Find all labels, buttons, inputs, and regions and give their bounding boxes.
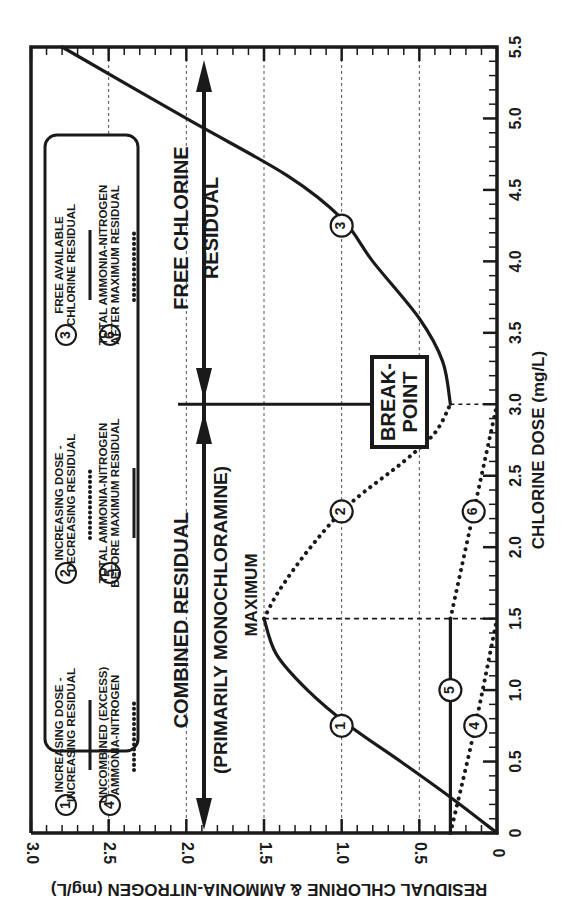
legend-text: INCREASING RESIDUAL — [65, 668, 77, 802]
arrow-down-icon — [196, 368, 212, 400]
arrow-up-icon — [196, 412, 212, 444]
breakpoint-label-line2: POINT — [399, 371, 421, 432]
legend-text: DECREASING RESIDUAL — [65, 434, 77, 573]
curve-markers: 123456 — [331, 215, 487, 737]
legend: 1INCREASING DOSE -INCREASING RESIDUAL2IN… — [45, 135, 138, 815]
legend-text: CHLORINE RESIDUAL — [65, 204, 77, 326]
residual-tick-label: 3.0 — [24, 842, 41, 864]
legend-number: 3 — [57, 331, 73, 339]
dose-tick-label: 1.5 — [507, 607, 524, 629]
dose-tick-label: 1.0 — [507, 679, 524, 701]
legend-text: UNCOMBINED (EXCESS) — [97, 666, 109, 803]
dose-tick-label: 5.5 — [507, 36, 524, 58]
monochloramine-label: (PRIMARILY MONOCHLORAMINE) — [210, 466, 231, 774]
dose-axis-title: CHLORINE DOSE (mg/L) — [529, 351, 548, 549]
residual-tick-label: 1.5 — [257, 842, 274, 864]
grid-lines — [109, 47, 497, 833]
legend-text: AFTER MAXIMUM RESIDUAL — [109, 185, 121, 345]
curve-marker-number: 2 — [332, 507, 348, 515]
dose-tick-label: 2.0 — [507, 536, 524, 558]
residual-tick-label: 2.0 — [179, 842, 196, 864]
residual-tick-label: 1.0 — [334, 842, 351, 864]
series-1-line — [264, 619, 497, 833]
chart-canvas: 00.51.01.52.02.53.000.51.01.52.02.53.03.… — [0, 0, 568, 921]
breakpoint-chlorination-chart: 00.51.01.52.02.53.000.51.01.52.02.53.03.… — [0, 0, 568, 921]
curve-marker-number: 1 — [332, 722, 348, 730]
arrow-down-icon — [196, 798, 212, 830]
legend-text: TOTAL AMMONIA-NITROGEN — [97, 185, 109, 346]
dose-tick-label: 3.5 — [507, 322, 524, 344]
free-chlorine-label: FREE CHLORINE — [170, 146, 192, 309]
residual-axis-title: RESIDUAL CHLORINE & AMMONIA-NITROGEN (mg… — [51, 880, 487, 899]
legend-text: BEFORE MAXIMUM RESIDUAL — [109, 418, 121, 587]
legend-text: TOTAL AMMONIA-NITROGEN — [97, 423, 109, 584]
curve-marker-number: 5 — [441, 686, 457, 694]
dose-tick-label: 0.5 — [507, 750, 524, 772]
arrow-up-icon — [196, 60, 212, 92]
curve-marker-number: 6 — [464, 507, 480, 515]
dose-tick-label: 4.0 — [507, 250, 524, 272]
legend-text: FREE AVAILABLE — [53, 216, 65, 314]
residual-tick-label: 0 — [490, 849, 507, 858]
dose-tick-label: 4.5 — [507, 179, 524, 201]
maximum-label: MAXIMUM — [242, 553, 261, 636]
curve-marker-number: 3 — [332, 222, 348, 230]
legend-text: AMMONIA-NITROGEN — [109, 675, 121, 796]
residual-tick-label: 0.5 — [412, 842, 429, 864]
dose-tick-label: 2.5 — [507, 465, 524, 487]
legend-text: INCREASING DOSE - — [53, 677, 65, 792]
curve-marker-number: 4 — [466, 722, 482, 730]
breakpoint-label-line1: BREAK- — [377, 363, 399, 441]
free-residual-label: RESIDUAL — [200, 177, 222, 279]
legend-text: INCREASING DOSE - — [53, 445, 65, 560]
dose-tick-label: 5.0 — [507, 107, 524, 129]
combined-residual-label: COMBINED RESIDUAL — [170, 512, 192, 729]
residual-tick-label: 2.5 — [101, 842, 118, 864]
dose-tick-label: 3.0 — [507, 393, 524, 415]
dose-tick-label: 0 — [507, 828, 524, 837]
